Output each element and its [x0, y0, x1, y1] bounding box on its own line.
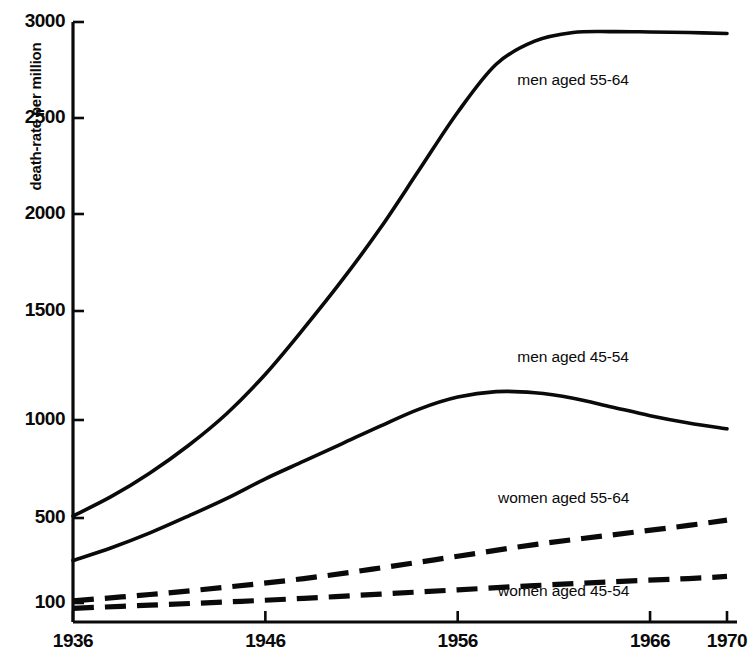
y-tick-label-2000: 2000 — [3, 202, 65, 224]
x-tick-label-1936: 1936 — [38, 630, 108, 652]
y-tick-label-100: 100 — [3, 591, 65, 613]
series-paths — [73, 32, 727, 609]
chart-canvas — [0, 0, 751, 661]
x-tick-label-1970: 1970 — [692, 630, 751, 652]
axis-lines — [73, 22, 737, 622]
y-tick-label-2500: 2500 — [3, 106, 65, 128]
series-line-men-aged-55-64 — [73, 32, 727, 517]
series-label-women-55-64: women aged 55-64 — [498, 489, 629, 507]
y-tick-label-1000: 1000 — [3, 408, 65, 430]
series-label-men-45-54: men aged 45-54 — [517, 348, 629, 366]
x-tick-label-1966: 1966 — [615, 630, 685, 652]
y-tick-label-3000: 3000 — [3, 10, 65, 32]
line-chart: death-rate per million 100 500 1000 1500… — [0, 0, 751, 661]
y-tick-label-1500: 1500 — [3, 299, 65, 321]
series-label-women-45-54: women aged 45-54 — [498, 582, 629, 600]
x-tick-label-1956: 1956 — [423, 630, 493, 652]
series-label-men-55-64: men aged 55-64 — [517, 71, 629, 89]
x-axis-ticks — [73, 611, 727, 622]
x-tick-label-1946: 1946 — [230, 630, 300, 652]
y-tick-label-500: 500 — [3, 506, 65, 528]
